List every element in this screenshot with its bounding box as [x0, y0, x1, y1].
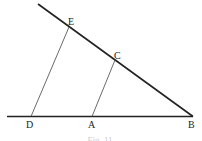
point-label-b: B [188, 119, 195, 130]
segment-de [31, 27, 69, 117]
geometry-figure: E C D A B Fig. 11 [0, 0, 202, 141]
point-label-d: D [26, 119, 33, 130]
point-label-c: C [114, 50, 121, 61]
segment-ac [92, 60, 115, 117]
figure-caption: Fig. 11 [87, 135, 112, 141]
point-label-a: A [88, 119, 96, 130]
point-label-e: E [68, 16, 74, 27]
